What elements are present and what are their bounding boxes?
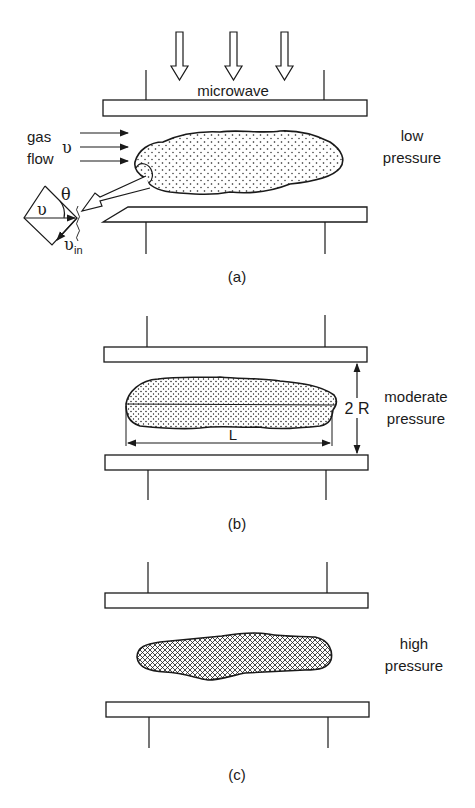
condition-label-low-2: pressure bbox=[383, 149, 441, 166]
plasma-blob-moderate-pressure bbox=[126, 377, 336, 429]
condition-label-high-2: pressure bbox=[385, 657, 443, 674]
gas-label: gas bbox=[27, 128, 51, 145]
top-plate bbox=[103, 100, 367, 116]
condition-label-high: high bbox=[400, 635, 428, 652]
top-plate bbox=[104, 347, 367, 362]
gas-flow-arrows bbox=[80, 133, 128, 161]
flow-label: flow bbox=[27, 150, 54, 167]
inward-velocity-subscript: in bbox=[74, 244, 83, 256]
plasma-blob-high-pressure bbox=[137, 633, 332, 680]
panel-a: microwave gas flow υ θ υ υ in bbox=[24, 32, 441, 285]
condition-label-moderate-2: pressure bbox=[387, 410, 445, 427]
ion-bombardment-arrow-icon bbox=[82, 176, 150, 211]
microwave-arrow-icon bbox=[171, 32, 188, 80]
caption-a: (a) bbox=[228, 268, 246, 285]
microwave-label: microwave bbox=[197, 82, 269, 99]
microwave-arrows bbox=[171, 32, 293, 80]
plasma-pressure-diagram: microwave gas flow υ θ υ υ in bbox=[0, 0, 475, 808]
velocity-symbol: υ bbox=[62, 138, 72, 157]
bottom-plate bbox=[106, 702, 369, 717]
inward-velocity-symbol: υ bbox=[64, 235, 74, 254]
gap-label: 2 R bbox=[345, 400, 370, 417]
panel-b: L 2 R moderate pressure (b) bbox=[104, 315, 448, 532]
microwave-arrow-icon bbox=[276, 32, 293, 80]
plasma-blob-low-pressure bbox=[135, 131, 343, 194]
bottom-plate bbox=[103, 207, 367, 222]
bottom-plate bbox=[105, 455, 368, 470]
length-label: L bbox=[229, 426, 237, 443]
microwave-arrow-icon bbox=[225, 32, 242, 80]
caption-b: (b) bbox=[228, 515, 246, 532]
condition-label-moderate: moderate bbox=[384, 388, 447, 405]
velocity-symbol-vector: υ bbox=[37, 200, 47, 219]
condition-label-low: low bbox=[401, 127, 424, 144]
angle-symbol: θ bbox=[61, 185, 71, 204]
top-plate bbox=[105, 593, 368, 608]
panel-c: high pressure (c) bbox=[105, 562, 443, 783]
caption-c: (c) bbox=[228, 766, 246, 783]
